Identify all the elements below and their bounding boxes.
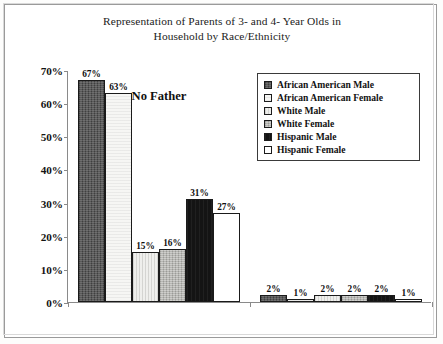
legend-swatch-icon (264, 133, 272, 141)
y-axis-tick-label: 40% (41, 164, 63, 176)
x-axis-group-tick (432, 302, 433, 307)
y-axis-tick-label: 10% (41, 264, 63, 276)
figure-border: Representation of Parents of 3- and 4- Y… (4, 4, 437, 338)
bar-value-label: 15% (136, 241, 155, 251)
bar-value-label: 16% (163, 238, 182, 248)
x-axis-group-tick (68, 302, 69, 307)
bar (368, 295, 395, 302)
bar (213, 213, 240, 302)
legend-item: White Female (264, 117, 414, 130)
bar (105, 93, 132, 302)
legend-item: African American Female (264, 91, 414, 104)
x-axis-category-label: No Father (132, 89, 187, 104)
x-axis-group-tick (250, 302, 251, 307)
bar (314, 295, 341, 302)
legend-swatch-icon (264, 107, 272, 115)
chart-title: Representation of Parents of 3- and 4- Y… (25, 14, 419, 44)
chart-legend: African American MaleAfrican American Fe… (257, 73, 420, 161)
bar-value-label: 2% (375, 284, 389, 294)
y-axis-tick-label: 0% (46, 297, 63, 309)
y-axis-tick-mark (64, 204, 68, 205)
legend-swatch-icon (264, 94, 272, 102)
bar (395, 299, 422, 302)
bar-value-label: 1% (294, 288, 308, 298)
y-axis-tick-mark (64, 137, 68, 138)
legend-item: White Male (264, 104, 414, 117)
bar (341, 295, 368, 302)
legend-item-label: White Male (277, 106, 325, 116)
legend-item: Hispanic Female (264, 143, 414, 156)
bar-value-label: 1% (402, 288, 416, 298)
figure-container: Representation of Parents of 3- and 4- Y… (0, 0, 443, 344)
bar-value-label: 2% (321, 284, 335, 294)
bar (159, 249, 186, 302)
bar-value-label: 27% (217, 202, 236, 212)
y-axis-tick-label: 20% (41, 231, 63, 243)
legend-swatch-icon (264, 120, 272, 128)
bar-value-label: 2% (267, 284, 281, 294)
bar-value-label: 63% (109, 82, 128, 92)
y-axis-tick-label: 70% (41, 65, 63, 77)
bar-value-label: 67% (82, 69, 101, 79)
bar (78, 80, 105, 302)
legend-item-label: Hispanic Male (277, 132, 336, 142)
chart-title-line-1: Representation of Parents of 3- and 4- Y… (25, 14, 419, 29)
y-axis-tick-mark (64, 237, 68, 238)
y-axis-tick-mark (64, 270, 68, 271)
legend-item: African American Male (264, 78, 414, 91)
bar-value-label: 2% (348, 284, 362, 294)
y-axis-tick-mark (64, 170, 68, 171)
legend-item-label: Hispanic Female (277, 145, 345, 155)
legend-item: Hispanic Male (264, 130, 414, 143)
bar (132, 252, 159, 302)
y-axis-tick-label: 30% (41, 198, 63, 210)
bar-value-label: 31% (190, 188, 209, 198)
y-axis-tick-label: 50% (41, 131, 63, 143)
bar (260, 295, 287, 302)
bar (186, 199, 213, 302)
y-axis-tick-label: 60% (41, 98, 63, 110)
y-axis-tick-mark (64, 104, 68, 105)
y-axis-tick-mark (64, 71, 68, 72)
chart-title-line-2: Household by Race/Ethnicity (25, 29, 419, 44)
legend-swatch-icon (264, 81, 272, 89)
legend-swatch-icon (264, 146, 272, 154)
bar (287, 299, 314, 302)
legend-item-label: African American Female (277, 93, 383, 103)
legend-item-label: White Female (277, 119, 334, 129)
legend-item-label: African American Male (277, 80, 374, 90)
